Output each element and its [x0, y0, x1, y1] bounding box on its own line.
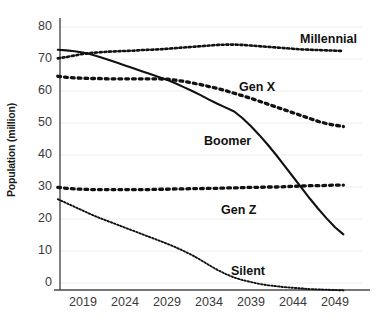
y-tick-label: 20 — [22, 211, 52, 225]
series-label-silent: Silent — [231, 264, 265, 278]
series-label-gen-x: Gen X — [239, 80, 275, 94]
y-tick-label: 60 — [22, 83, 52, 97]
y-tick-label: 10 — [22, 243, 52, 257]
series-label-boomer: Boomer — [204, 134, 251, 148]
y-tick-label: 40 — [22, 147, 52, 161]
series-label-gen-z: Gen Z — [221, 203, 256, 217]
y-tick-label: 30 — [22, 179, 52, 193]
series-paths — [58, 45, 344, 291]
series-line-gen-x — [58, 76, 344, 126]
y-tick-label: 80 — [22, 19, 52, 33]
chart-canvas — [0, 0, 380, 326]
y-tick-label: 0 — [22, 275, 52, 289]
population-generations-line-chart: Population (million) 01020304050607080 2… — [0, 0, 380, 326]
x-tick-label: 2029 — [145, 295, 189, 309]
y-tick-label: 50 — [22, 115, 52, 129]
x-tick-label: 2049 — [313, 295, 357, 309]
y-tick-label: 70 — [22, 51, 52, 65]
x-tick-label: 2039 — [229, 295, 273, 309]
x-tick-label: 2024 — [103, 295, 147, 309]
x-tick-label: 2044 — [271, 295, 315, 309]
x-tick-label: 2034 — [187, 295, 231, 309]
series-label-millennial: Millennial — [300, 32, 357, 46]
gridlines — [60, 27, 362, 283]
x-tick-label: 2019 — [61, 295, 105, 309]
series-line-silent — [58, 199, 344, 290]
